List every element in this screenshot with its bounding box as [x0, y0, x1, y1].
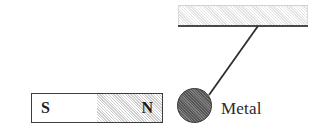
ceiling-support-edge	[178, 25, 308, 27]
bar-magnet: S N	[31, 93, 163, 123]
ceiling-support	[178, 5, 308, 25]
metal-sphere	[177, 88, 212, 123]
north-pole: N	[97, 94, 162, 122]
north-pole-letter: N	[141, 100, 153, 116]
south-pole: S	[32, 94, 97, 122]
string-line	[209, 26, 258, 95]
metal-label: Metal	[221, 99, 262, 119]
south-pole-letter: S	[41, 100, 50, 116]
physics-diagram: Metal S N	[0, 0, 310, 134]
